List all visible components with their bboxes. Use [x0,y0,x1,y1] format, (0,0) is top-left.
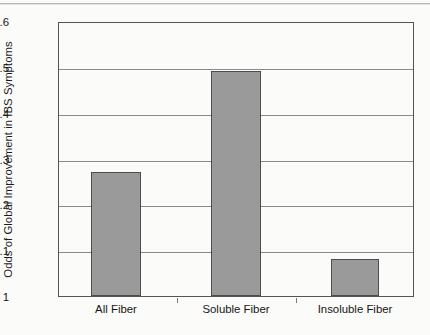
x-label-all-fiber: All Fiber [95,303,137,315]
plot-area [58,22,414,297]
y-tick-label-1-4: 1.4 [0,108,9,120]
x-axis-tick-2 [296,298,297,303]
x-axis-tick-1 [177,298,178,303]
x-label-insoluble-fiber: Insoluble Fiber [318,303,393,315]
y-tick-label-1-1: 1.1 [0,245,9,257]
y-tick-label-1-6: 1.6 [0,16,9,28]
scan-artifact-line-secondary [0,4,430,5]
gridline-1-5 [59,69,413,70]
bar-all-fiber [91,172,141,296]
bar-chart-screenshot: Odds of Global Improvement in IBS Sympto… [0,0,430,335]
bar-soluble-fiber [211,71,261,296]
y-tick-label-1-0: 1 [0,291,9,303]
bar-insoluble-fiber [331,259,379,296]
y-tick-label-1-3: 1.3 [0,154,9,166]
y-tick-label-1-5: 1.5 [0,62,9,74]
x-label-soluble-fiber: Soluble Fiber [202,303,269,315]
y-tick-label-1-2: 1.2 [0,199,9,211]
